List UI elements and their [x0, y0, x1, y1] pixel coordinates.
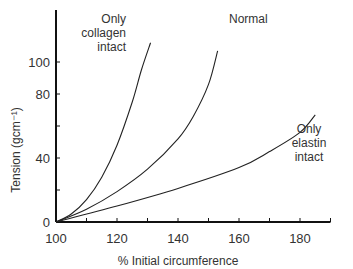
label-elastin: Only — [297, 122, 322, 136]
label-normal: Normal — [229, 12, 268, 26]
label-collagen: Only — [101, 12, 126, 26]
y-tick-label: 0 — [43, 215, 50, 230]
series-line-1 — [56, 51, 218, 222]
x-tick-label: 140 — [167, 231, 189, 246]
label-collagen: collagen — [81, 26, 126, 40]
label-elastin: intact — [295, 150, 324, 164]
label-elastin: elastin — [292, 136, 327, 150]
y-tick-label: 100 — [28, 55, 50, 70]
label-collagen: intact — [97, 40, 126, 54]
y-tick-label: 40 — [36, 151, 50, 166]
chart: 04080100100120140160180% Initial circumf… — [0, 0, 353, 269]
y-tick-label: 80 — [36, 87, 50, 102]
x-tick-label: 120 — [106, 231, 128, 246]
x-tick-label: 180 — [289, 231, 311, 246]
x-tick-label: 100 — [45, 231, 67, 246]
x-axis-label: % Initial circumference — [118, 254, 239, 268]
series-line-2 — [56, 115, 315, 222]
y-axis-label: Tension (gcm⁻¹) — [9, 107, 23, 192]
x-tick-label: 160 — [228, 231, 250, 246]
series-line-0 — [56, 43, 151, 222]
